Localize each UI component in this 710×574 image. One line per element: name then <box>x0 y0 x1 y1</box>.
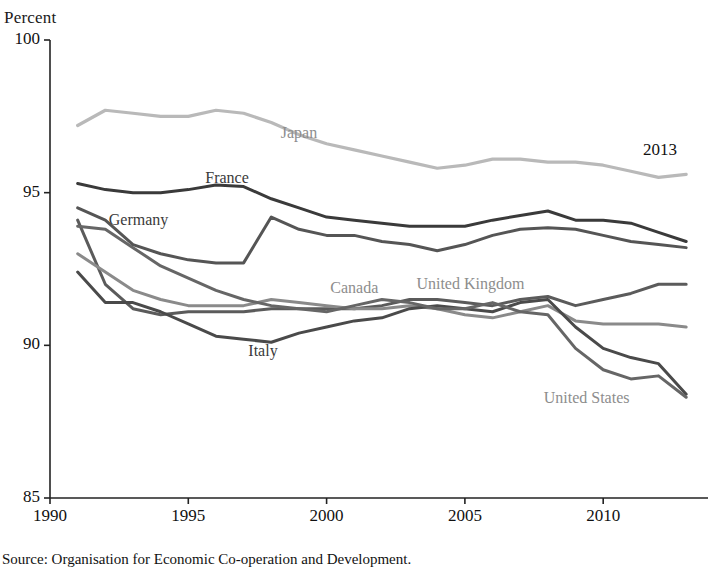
series-label-united-kingdom: United Kingdom <box>416 275 524 293</box>
x-axis-tick-label: 1990 <box>15 506 85 526</box>
y-axis-tick-label: 100 <box>0 29 40 49</box>
source-note: Source: Organisation for Economic Co-ope… <box>2 551 411 568</box>
series-label-canada: Canada <box>330 279 378 297</box>
series-line-united-states <box>78 226 687 397</box>
x-axis-tick-label: 1995 <box>153 506 223 526</box>
series-line-germany <box>78 208 687 263</box>
series-label-france: France <box>205 169 249 187</box>
x-axis-tick-label: 2005 <box>430 506 500 526</box>
y-axis-tick-label: 95 <box>0 182 40 202</box>
x-axis-tick-label: 2010 <box>568 506 638 526</box>
x-axis-tick-label: 2000 <box>292 506 362 526</box>
series-label-italy: Italy <box>248 342 277 360</box>
y-axis-tick-label: 85 <box>0 487 40 507</box>
series-label-united-states: United States <box>544 389 630 407</box>
y-axis-tick-label: 90 <box>0 334 40 354</box>
series-label-japan: Japan <box>281 124 317 142</box>
end-year-annotation: 2013 <box>643 140 677 160</box>
series-label-germany: Germany <box>109 211 169 229</box>
series-line-italy <box>78 272 687 394</box>
series-line-japan <box>78 110 687 177</box>
chart-figure: Percent Source: Organisation for Economi… <box>0 0 710 574</box>
